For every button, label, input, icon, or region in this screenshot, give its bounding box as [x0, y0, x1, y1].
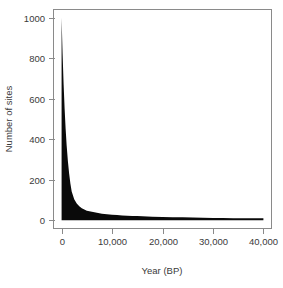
x-axis-title: Year (BP): [142, 265, 183, 276]
y-tick-label: 800: [29, 53, 45, 64]
y-tick-label: 0: [40, 215, 45, 226]
x-tick-label: 40,000: [249, 236, 278, 247]
decay-area-chart: 010,00020,00030,00040,000 02004006008001…: [0, 0, 283, 288]
y-tick-label: 600: [29, 94, 45, 105]
chart-figure: 010,00020,00030,00040,000 02004006008001…: [0, 0, 283, 288]
x-tick-label: 30,000: [199, 236, 228, 247]
y-tick-label: 1000: [24, 13, 45, 24]
y-tick-label: 200: [29, 175, 45, 186]
y-axis-title: Number of sites: [3, 85, 14, 152]
x-tick-label: 0: [60, 236, 65, 247]
x-tick-label: 10,000: [98, 236, 127, 247]
y-tick-label: 400: [29, 134, 45, 145]
x-tick-label: 20,000: [149, 236, 178, 247]
